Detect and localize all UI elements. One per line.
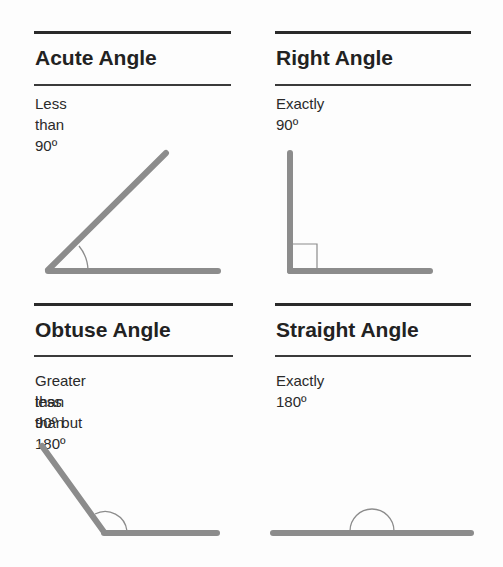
right-angle-figure [290,153,430,271]
straight-angle-figure [273,509,471,533]
acute-angle-figure [48,153,218,271]
angle-figures [0,0,503,567]
obtuse-angle-figure [42,446,217,533]
